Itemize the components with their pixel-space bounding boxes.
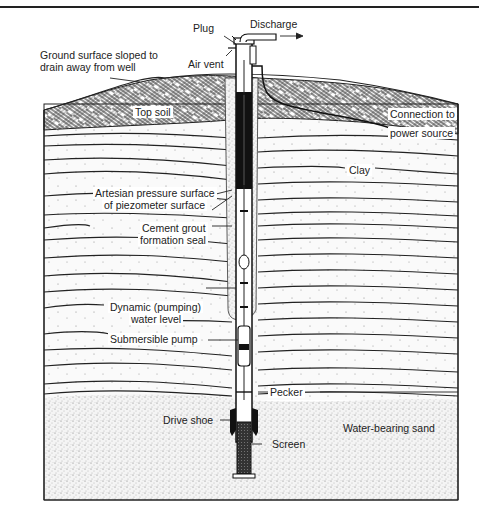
label-discharge: Discharge	[250, 18, 297, 30]
label-ground-surface-2: drain away from well	[40, 61, 136, 73]
label-connection-2: power source	[388, 127, 455, 139]
label-artesian-2: of piezometer surface	[102, 199, 207, 211]
label-dynamic-1: Dynamic (pumping)	[108, 301, 203, 313]
label-top-soil: Top soil	[133, 106, 173, 118]
well-screen	[237, 422, 251, 474]
label-pecker: Pecker	[268, 386, 305, 398]
label-clay: Clay	[347, 164, 372, 176]
label-submersible-pump: Submersible pump	[108, 333, 200, 345]
label-connection-1: Connection to	[388, 108, 457, 120]
label-dynamic-2: water level	[129, 313, 183, 325]
label-cement-1: Cement grout	[140, 222, 208, 234]
label-drive-shoe: Drive shoe	[163, 414, 213, 426]
label-artesian-1: Artesian pressure surface	[93, 187, 217, 199]
label-screen: Screen	[272, 438, 305, 450]
label-plug: Plug	[193, 22, 214, 34]
label-air-vent: Air vent	[188, 58, 224, 70]
label-ground-surface-1: Ground surface sloped to	[40, 49, 158, 61]
label-cement-2: formation seal	[138, 234, 208, 246]
label-water-bearing-sand: Water-bearing sand	[343, 422, 435, 434]
